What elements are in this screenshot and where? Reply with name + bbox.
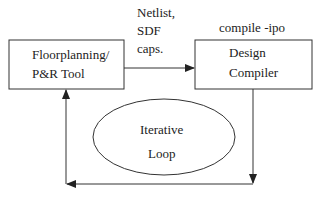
floorplanning-label-line1: Floorplanning/ xyxy=(32,47,109,63)
design-label-line1: Design xyxy=(229,45,266,61)
netlist-label-line3: caps. xyxy=(137,41,163,57)
design-label-line2: Compiler xyxy=(229,65,278,81)
compile-label: compile -ipo xyxy=(219,20,285,36)
floorplanning-label-line2: P&R Tool xyxy=(32,66,85,82)
iterative-label-line1: Iterative xyxy=(140,122,183,138)
iterative-label-line2: Loop xyxy=(148,146,175,162)
netlist-label-line2: SDF xyxy=(137,23,161,39)
netlist-label-line1: Netlist, xyxy=(137,5,175,21)
